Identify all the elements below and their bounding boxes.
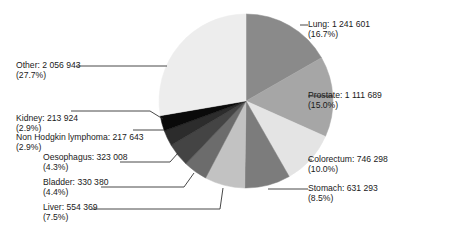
slice-label-percent: (2.9%) [16,123,78,133]
slice-label: Liver: 554 369(7.5%) [43,202,97,222]
slice-label-percent: (16.7%) [308,29,370,39]
slice-label-percent: (10.0%) [308,164,388,174]
slice-label: Non Hodgkin lymphoma: 217 643(2.9%) [16,132,144,152]
slice-label: Oesophagus: 323 008(4.3%) [43,152,128,172]
slice-label-name-value: Colorectum: 746 298 [308,154,388,164]
slice-label-name-value: Kidney: 213 924 [16,113,78,123]
leader-line [92,188,223,209]
slice-label-percent: (2.9%) [16,142,144,152]
slice-label: Lung: 1 241 601(16.7%) [308,19,370,39]
leader-line [71,111,163,119]
slice-label-percent: (15.0%) [308,100,382,110]
slice-label: Other: 2 056 943(27.7%) [16,60,81,80]
slice-label-percent: (27.7%) [16,70,81,80]
slice-label-percent: (8.5%) [308,193,378,203]
pie-slice-other [159,14,246,116]
slice-label-percent: (4.4%) [43,187,108,197]
slice-label-percent: (7.5%) [43,212,97,222]
slice-label-name-value: Prostate: 1 111 689 [308,90,382,100]
pie-slices [159,14,333,188]
slice-label: Bladder: 330 380(4.4%) [43,177,108,197]
slice-label-percent: (4.3%) [43,162,128,172]
slice-label: Colorectum: 746 298(10.0%) [308,154,388,174]
leader-line [101,173,194,187]
slice-label-name-value: Other: 2 056 943 [16,60,81,70]
slice-label: Prostate: 1 111 689(15.0%) [308,90,382,110]
slice-label-name-value: Lung: 1 241 601 [308,19,370,29]
slice-label-name-value: Liver: 554 369 [43,202,97,212]
slice-label: Kidney: 213 924(2.9%) [16,113,78,133]
slice-label-name-value: Stomach: 631 293 [308,183,378,193]
slice-label-name-value: Bladder: 330 380 [43,177,108,187]
leader-line [120,153,178,162]
slice-label-name-value: Oesophagus: 323 008 [43,152,128,162]
slice-label: Stomach: 631 293(8.5%) [308,183,378,203]
slice-label-name-value: Non Hodgkin lymphoma: 217 643 [16,132,144,142]
